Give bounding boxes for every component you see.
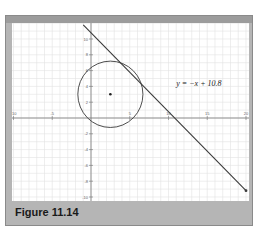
frame-top-bar — [6, 16, 252, 23]
x-tick-label: 20 — [244, 111, 249, 116]
figure-caption: Figure 11.14 — [15, 206, 79, 218]
plot-area: -10-55101520-10-8-6-4-2246810y = −x + 10… — [12, 23, 249, 201]
y-tick-label: -10 — [82, 195, 89, 200]
chart-svg: -10-55101520-10-8-6-4-2246810y = −x + 10… — [12, 23, 249, 201]
tangent-line — [83, 25, 246, 191]
x-tick-label: -10 — [12, 111, 17, 116]
x-tick-label: -5 — [50, 111, 54, 116]
center-point — [109, 93, 112, 96]
y-tick-label: 10 — [84, 37, 89, 42]
line-endpoint — [245, 189, 248, 192]
x-tick-label: 5 — [129, 111, 132, 116]
x-tick-label: 15 — [205, 111, 210, 116]
line-equation-label: y = −x + 10.8 — [175, 79, 221, 88]
figure-frame: -10-55101520-10-8-6-4-2246810y = −x + 10… — [5, 15, 253, 226]
